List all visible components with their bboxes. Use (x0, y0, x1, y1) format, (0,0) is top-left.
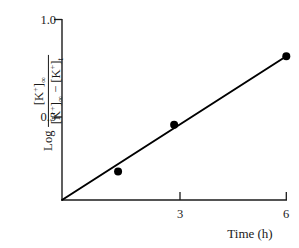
data-point (282, 52, 290, 60)
plot-area (0, 0, 299, 248)
data-series-layer (62, 52, 290, 200)
data-point (170, 121, 178, 129)
chart-figure: Log [K+]∞ [K+]∞ − [K+]t 1.0 0.5 3 6 Time… (0, 0, 299, 248)
data-point (114, 168, 122, 176)
tick-marks (54, 20, 286, 201)
axis-lines (62, 19, 287, 200)
